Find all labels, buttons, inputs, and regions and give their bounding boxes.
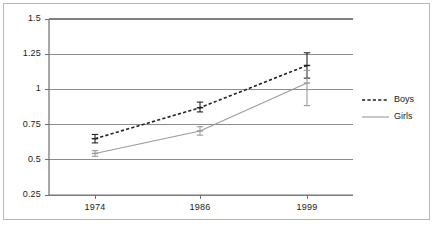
legend-label-boys[interactable]: Boys [394, 94, 414, 104]
y-tick-label: 1.25 [8, 48, 41, 58]
y-tick-label: 0.5 [8, 154, 41, 164]
series-layer [92, 53, 310, 156]
x-tick-label: 1986 [175, 202, 225, 212]
legend-swatches [362, 100, 389, 117]
y-tick-label: 0.25 [8, 189, 41, 199]
y-tick-label: 1 [8, 83, 41, 93]
error-bar [304, 70, 310, 105]
error-bar [197, 102, 203, 112]
x-tick-marks [95, 195, 307, 199]
series-girls [92, 70, 310, 156]
y-tick-label: 0.75 [8, 119, 41, 129]
x-tick-label: 1999 [282, 202, 332, 212]
series-line [95, 83, 307, 153]
y-tick-label: 1.5 [8, 13, 41, 23]
series-boys [92, 53, 310, 143]
x-tick-label: 1974 [70, 202, 120, 212]
legend-label-girls[interactable]: Girls [394, 111, 413, 121]
